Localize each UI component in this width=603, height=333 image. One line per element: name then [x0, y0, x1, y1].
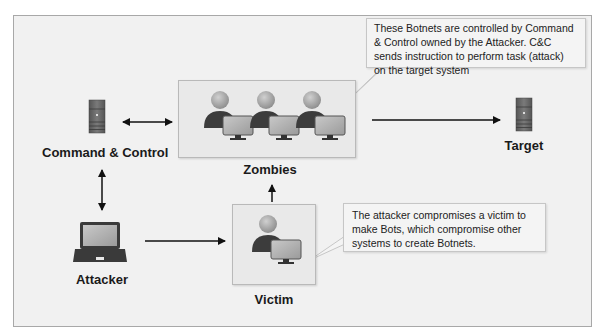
target-label: Target: [499, 138, 549, 153]
zombies-callout: These Botnets are controlled by Command …: [366, 18, 586, 68]
target-server-icon: [516, 98, 532, 131]
victim-box: [232, 204, 316, 285]
command-control-server-icon: [89, 100, 105, 133]
attacker-laptop-icon: [73, 222, 127, 262]
attacker-label: Attacker: [70, 272, 134, 287]
zombies-label: Zombies: [235, 162, 305, 177]
zombies-box: [178, 80, 356, 158]
victim-label: Victim: [244, 292, 304, 307]
victim-callout: The attacker compromises a victim to mak…: [343, 203, 546, 252]
command-control-label: Command & Control: [42, 145, 162, 160]
